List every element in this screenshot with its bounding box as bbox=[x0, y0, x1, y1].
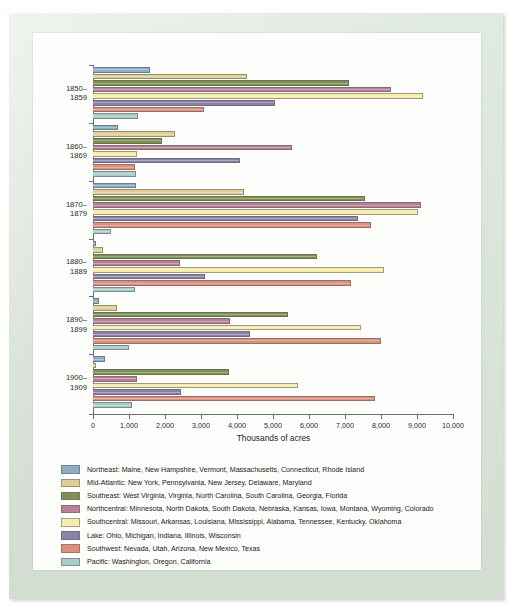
bar-northeast-5 bbox=[93, 356, 105, 362]
legend-item: Lake: Ohio, Michigan, Indiana, Illinois,… bbox=[61, 529, 481, 542]
legend-swatch-pacific bbox=[61, 558, 80, 567]
bar-southwest-1 bbox=[93, 164, 135, 170]
legend-item: Southeast: West Virginia, Virginia, Nort… bbox=[61, 489, 481, 502]
bar-southcentral-3 bbox=[93, 267, 384, 273]
y-axis-group-label-line: 1870– bbox=[39, 200, 87, 210]
bar-northeast-4 bbox=[93, 298, 99, 304]
y-axis-group-label-line: 1900– bbox=[39, 373, 87, 383]
y-axis-group-label-line: 1879 bbox=[39, 209, 87, 219]
bar-southwest-0 bbox=[93, 107, 204, 113]
x-axis-tick-label: 8,000 bbox=[372, 421, 390, 430]
legend-item: Mid-Atlantic: New York, Pennsylvania, Ne… bbox=[61, 476, 481, 489]
bar-southeast-2 bbox=[93, 196, 365, 202]
bar-lake-5 bbox=[93, 389, 181, 395]
legend-label: Southcentral: Missouri, Arkansas, Louisi… bbox=[87, 518, 401, 526]
bar-northcentral-1 bbox=[93, 145, 292, 151]
legend-label: Southeast: West Virginia, Virginia, Nort… bbox=[87, 492, 347, 500]
x-axis-tick bbox=[345, 415, 346, 419]
bar-pacific-1 bbox=[93, 171, 136, 177]
y-axis-group-label: 1850–1859 bbox=[39, 84, 87, 103]
y-axis-group-label: 1860–1869 bbox=[39, 142, 87, 161]
y-axis-group-tick bbox=[89, 414, 94, 415]
bar-pacific-0 bbox=[93, 113, 138, 119]
y-axis-group-label: 1870–1879 bbox=[39, 200, 87, 219]
bar-northeast-1 bbox=[93, 125, 118, 131]
legend-swatch-southeast bbox=[61, 492, 80, 501]
x-axis-tick bbox=[273, 415, 274, 419]
bar-lake-4 bbox=[93, 331, 250, 337]
bar-pacific-3 bbox=[93, 287, 135, 293]
bar-pacific-5 bbox=[93, 402, 132, 408]
x-axis-tick bbox=[417, 415, 418, 419]
x-axis-tick-label: 7,000 bbox=[336, 421, 354, 430]
x-axis-tick bbox=[237, 415, 238, 419]
bar-southwest-2 bbox=[93, 222, 371, 228]
bar-southeast-4 bbox=[93, 312, 288, 318]
x-axis-tick bbox=[165, 415, 166, 419]
legend-label: Mid-Atlantic: New York, Pennsylvania, Ne… bbox=[87, 479, 312, 487]
legend-item: Southcentral: Missouri, Arkansas, Louisi… bbox=[61, 516, 481, 529]
legend-item: Northeast: Maine, New Hampshire, Vermont… bbox=[61, 463, 481, 476]
x-axis-tick-label: 4,000 bbox=[228, 421, 246, 430]
bar-northeast-3 bbox=[93, 241, 96, 247]
legend-swatch-southcentral bbox=[61, 518, 80, 527]
plot-area bbox=[93, 65, 453, 412]
bar-lake-2 bbox=[93, 216, 358, 222]
x-axis-title: Thousands of acres bbox=[93, 433, 454, 443]
bar-northcentral-5 bbox=[93, 376, 137, 382]
legend-item: Southwest: Nevada, Utah, Arizona, New Me… bbox=[61, 542, 481, 555]
paper-sheet: Thousands of acres 01,0002,0003,0004,000… bbox=[9, 13, 503, 599]
x-axis-tick bbox=[381, 415, 382, 419]
y-axis-group-label: 1880–1889 bbox=[39, 257, 87, 276]
y-axis-group-label-line: 1860– bbox=[39, 142, 87, 152]
bar-southeast-1 bbox=[93, 138, 162, 144]
bar-southwest-4 bbox=[93, 338, 381, 344]
y-axis-group-label: 1900–1909 bbox=[39, 373, 87, 392]
bar-southcentral-2 bbox=[93, 209, 418, 215]
legend-label: Pacific: Washington, Oregon, California bbox=[87, 558, 211, 566]
x-axis-tick-label: 1,000 bbox=[120, 421, 138, 430]
legend-item: Northcentral: Minnesota, North Dakota, S… bbox=[61, 503, 481, 516]
bar-southeast-0 bbox=[93, 80, 349, 86]
legend-label: Northcentral: Minnesota, North Dakota, S… bbox=[87, 505, 434, 513]
bar-lake-3 bbox=[93, 274, 205, 280]
legend-swatch-lake bbox=[61, 531, 80, 540]
bar-southwest-3 bbox=[93, 280, 351, 286]
bar-northcentral-3 bbox=[93, 260, 180, 266]
x-axis-tick-label: 9,000 bbox=[408, 421, 426, 430]
bar-mid-atlantic-4 bbox=[93, 305, 117, 311]
x-axis-tick-label: 0 bbox=[91, 421, 95, 430]
bar-southcentral-4 bbox=[93, 325, 361, 331]
legend-label: Northeast: Maine, New Hampshire, Vermont… bbox=[87, 466, 364, 474]
legend-swatch-northcentral bbox=[61, 505, 80, 514]
y-axis-group-label-line: 1869 bbox=[39, 151, 87, 161]
y-axis-group-label-line: 1899 bbox=[39, 325, 87, 335]
x-axis-tick bbox=[453, 415, 454, 419]
figure-card: Thousands of acres 01,0002,0003,0004,000… bbox=[33, 33, 481, 570]
y-axis-group-label-line: 1880– bbox=[39, 257, 87, 267]
x-axis-tick-label: 10,000 bbox=[442, 421, 464, 430]
legend-label: Lake: Ohio, Michigan, Indiana, Illinois,… bbox=[87, 532, 241, 540]
y-axis-group-tick bbox=[89, 65, 94, 66]
bar-pacific-2 bbox=[93, 229, 111, 235]
x-axis-tick-label: 2,000 bbox=[156, 421, 174, 430]
y-axis-group-label-line: 1890– bbox=[39, 315, 87, 325]
y-axis-group-label-line: 1850– bbox=[39, 84, 87, 94]
bar-mid-atlantic-3 bbox=[93, 247, 103, 253]
bar-mid-atlantic-1 bbox=[93, 131, 175, 137]
x-axis-tick bbox=[309, 415, 310, 419]
bar-lake-0 bbox=[93, 100, 275, 106]
legend-swatch-mid-atlantic bbox=[61, 479, 80, 488]
y-axis-group-label-line: 1889 bbox=[39, 267, 87, 277]
y-axis-group-tick bbox=[89, 123, 94, 124]
legend-item: Pacific: Washington, Oregon, California bbox=[61, 555, 481, 568]
bar-southeast-3 bbox=[93, 254, 317, 260]
y-axis-group-label: 1890–1899 bbox=[39, 315, 87, 334]
legend-swatch-northeast bbox=[61, 465, 80, 474]
bar-southeast-5 bbox=[93, 369, 229, 375]
x-axis-tick-label: 3,000 bbox=[192, 421, 210, 430]
x-axis-tick-label: 5,000 bbox=[264, 421, 282, 430]
bar-northeast-0 bbox=[93, 67, 150, 73]
bar-southcentral-1 bbox=[93, 151, 137, 157]
bar-northcentral-0 bbox=[93, 87, 391, 93]
